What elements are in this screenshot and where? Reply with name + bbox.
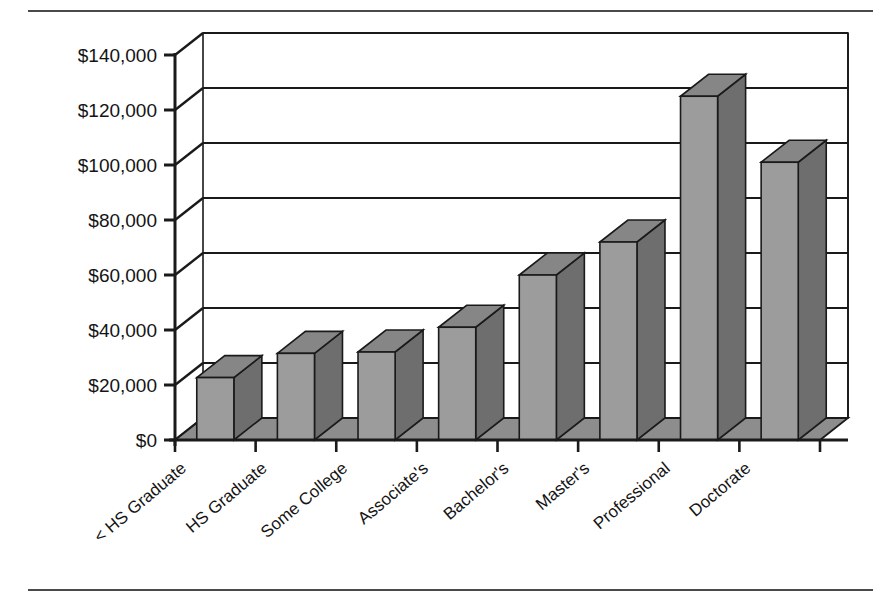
y-tick-label: $120,000 — [78, 100, 157, 121]
bar-4 — [439, 305, 504, 440]
chart-figure: $0$20,000$40,000$60,000$80,000$100,000$1… — [0, 0, 889, 606]
y-tick-label: $40,000 — [88, 320, 157, 341]
y-tick-label: $80,000 — [88, 210, 157, 231]
bar-2 — [277, 331, 342, 440]
gridlines-group — [175, 33, 848, 440]
bar-6 — [600, 220, 665, 440]
y-tick-label: $100,000 — [78, 155, 157, 176]
x-axis-labels: < HS GraduateHS GraduateSome CollegeAsso… — [90, 459, 754, 547]
x-tick-label: Some College — [257, 459, 351, 542]
x-tick-label: < HS Graduate — [90, 459, 189, 547]
x-tick-label: Professional — [590, 459, 674, 534]
x-tick-label: Master's — [532, 459, 593, 515]
chart-floor — [175, 418, 848, 440]
bar-8 — [761, 140, 826, 440]
x-tick-label: Bachelor's — [440, 459, 513, 524]
y-tick-label: $20,000 — [88, 375, 157, 396]
bar-chart: $0$20,000$40,000$60,000$80,000$100,000$1… — [0, 0, 889, 606]
x-tick-label: Associate's — [354, 459, 432, 528]
y-axis-labels: $0$20,000$40,000$60,000$80,000$100,000$1… — [78, 45, 157, 451]
y-tick-label: $60,000 — [88, 265, 157, 286]
bar-3 — [358, 330, 423, 440]
x-tick-label: HS Graduate — [182, 459, 270, 537]
y-tick-label: $140,000 — [78, 45, 157, 66]
y-tick-label: $0 — [136, 430, 157, 451]
bar-5 — [519, 253, 584, 440]
bar-7 — [681, 74, 746, 440]
x-tick-label: Doctorate — [686, 459, 755, 521]
